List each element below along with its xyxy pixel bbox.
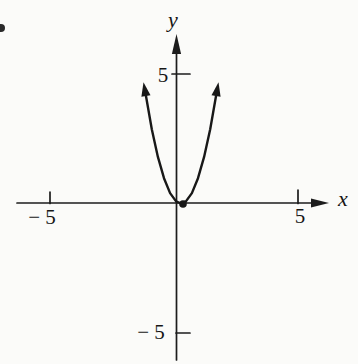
coordinate-plane-figure: y x 5 − 5 − 5 5	[0, 0, 358, 364]
x-axis-arrowhead	[311, 198, 329, 207]
parabola-right-arrowhead	[212, 82, 221, 97]
y-neg-tick-label: − 5	[137, 322, 165, 343]
y-axis-arrowhead	[172, 34, 181, 54]
x-pos-tick-label: 5	[295, 206, 306, 227]
y-pos-tick-label: 5	[158, 65, 169, 86]
x-neg-tick-label: − 5	[28, 207, 56, 228]
x-axis-label: x	[338, 188, 348, 210]
vertex-point-dot	[179, 200, 187, 208]
parabola-left-arrowhead	[141, 82, 150, 97]
parabola-curve	[146, 95, 216, 204]
axes-svg	[0, 0, 358, 364]
y-axis-label: y	[168, 9, 178, 31]
